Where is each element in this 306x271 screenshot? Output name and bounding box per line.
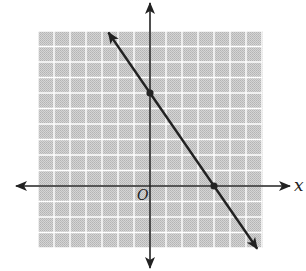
origin-label: O bbox=[137, 187, 148, 203]
coordinate-plane bbox=[0, 0, 306, 271]
x-axis-label: x bbox=[294, 175, 304, 195]
point-x-intercept bbox=[210, 182, 217, 189]
point-y-intercept bbox=[146, 89, 153, 96]
